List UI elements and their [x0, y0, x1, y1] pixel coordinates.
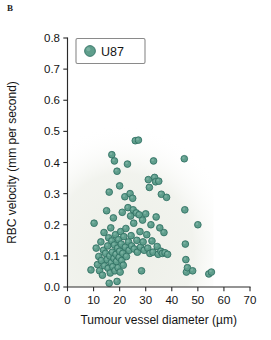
scatter-chart: 0.00.10.20.30.40.50.60.70.80102030405060…: [0, 0, 271, 340]
data-point: [123, 253, 130, 260]
data-point: [106, 189, 113, 196]
data-point: [164, 251, 171, 258]
data-point-highlight: [140, 218, 143, 221]
data-point: [106, 280, 113, 287]
x-tick-label: 60: [218, 294, 231, 306]
data-point-highlight: [124, 226, 127, 229]
data-point-highlight: [130, 244, 133, 247]
data-point-highlight: [138, 229, 141, 232]
y-tick-label: 0.4: [44, 157, 61, 169]
figure-panel: B 0.00.10.20.30.40.50.60.70.801020304050…: [0, 0, 271, 340]
data-point-highlight: [138, 245, 141, 248]
data-point: [120, 262, 127, 269]
data-point-highlight: [146, 177, 149, 180]
x-axis-title: Tumour vessel diameter (µm): [80, 313, 237, 327]
y-tick-label: 0.5: [44, 125, 60, 137]
data-point-highlight: [100, 273, 103, 276]
data-point: [99, 272, 106, 279]
data-point-highlight: [129, 233, 132, 236]
data-point-highlight: [92, 221, 95, 224]
data-point-highlight: [132, 247, 135, 250]
data-point-highlight: [141, 240, 144, 243]
data-point-highlight: [107, 190, 110, 193]
data-point: [163, 194, 170, 201]
y-tick-label: 0.8: [44, 32, 60, 44]
data-point: [108, 151, 115, 158]
data-point-highlight: [144, 212, 147, 215]
data-point-highlight: [149, 223, 152, 226]
data-point-highlight: [113, 233, 116, 236]
data-point-highlight: [102, 264, 105, 267]
data-point-highlight: [146, 246, 149, 249]
data-point: [148, 221, 155, 228]
data-point-highlight: [166, 252, 169, 255]
data-point-highlight: [183, 242, 186, 245]
data-point-highlight: [112, 159, 115, 162]
data-point-highlight: [182, 157, 185, 160]
data-point: [116, 182, 123, 189]
data-point: [119, 209, 126, 216]
data-point: [182, 241, 189, 248]
data-point: [146, 184, 153, 191]
data-point-highlight: [184, 257, 187, 260]
data-point-highlight: [101, 248, 104, 251]
data-point-highlight: [106, 266, 109, 269]
data-point: [124, 161, 131, 168]
data-point-highlight: [117, 237, 120, 240]
data-point-highlight: [137, 213, 140, 216]
data-point-highlight: [105, 209, 108, 212]
data-point-highlight: [106, 244, 109, 247]
data-point: [93, 245, 100, 252]
y-tick-label: 0.7: [44, 63, 60, 75]
y-tick-label: 0.6: [44, 94, 60, 106]
data-point: [129, 195, 136, 202]
data-point-highlight: [183, 208, 186, 211]
data-point: [155, 178, 162, 185]
data-point: [150, 158, 157, 165]
data-point-highlight: [131, 196, 134, 199]
y-tick-label: 0.0: [44, 281, 60, 293]
data-point: [181, 206, 188, 213]
data-point-highlight: [115, 169, 118, 172]
data-point-highlight: [164, 195, 167, 198]
data-point-highlight: [135, 250, 138, 253]
data-point: [91, 220, 98, 227]
data-point-highlight: [108, 271, 111, 274]
data-point-highlight: [162, 230, 165, 233]
data-point: [111, 158, 118, 165]
data-point: [135, 137, 142, 144]
data-point-highlight: [111, 265, 114, 268]
data-point-highlight: [111, 216, 114, 219]
data-point: [142, 211, 149, 218]
data-point-highlight: [99, 240, 102, 243]
data-point-highlight: [114, 252, 117, 255]
data-point: [130, 220, 137, 227]
data-point-highlight: [89, 268, 92, 271]
data-point: [123, 225, 130, 232]
data-point: [137, 228, 144, 235]
data-point-highlight: [122, 234, 125, 237]
data-point-highlight: [97, 269, 100, 272]
data-point: [183, 256, 190, 263]
data-point-highlight: [121, 251, 124, 254]
data-point-highlight: [110, 239, 113, 242]
data-point-highlight: [154, 215, 157, 218]
data-point: [189, 267, 196, 274]
data-point-highlight: [112, 243, 115, 246]
chart-legend: U87: [76, 39, 145, 64]
data-point-highlight: [185, 266, 188, 269]
data-point-highlight: [151, 250, 154, 253]
data-point: [114, 168, 121, 175]
x-tick-label: 30: [139, 294, 152, 306]
data-point-highlight: [150, 239, 153, 242]
data-point-highlight: [136, 138, 139, 141]
data-point-highlight: [135, 238, 138, 241]
data-point-highlight: [103, 251, 106, 254]
data-point-highlight: [125, 162, 128, 165]
data-point: [88, 267, 95, 274]
y-tick-label: 0.2: [44, 219, 60, 231]
data-point-highlight: [126, 240, 129, 243]
data-point-highlight: [117, 255, 120, 258]
data-point: [161, 229, 168, 236]
data-point: [103, 207, 110, 214]
